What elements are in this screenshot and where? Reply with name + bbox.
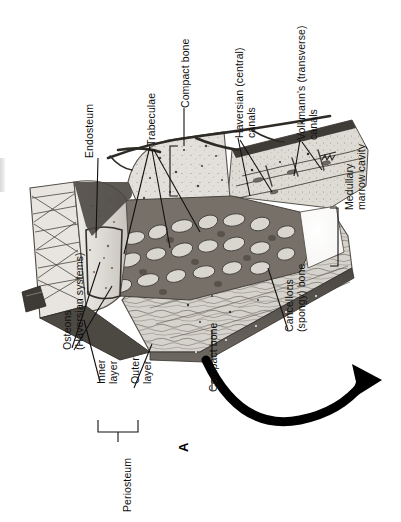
label-compact-bone-top: Compact bone [180, 39, 192, 109]
label-outer-layer: Outer layer [130, 357, 153, 384]
label-periosteum: Periosteum [122, 458, 134, 512]
label-haversian-line1: Haversian (central) [233, 47, 245, 138]
label-osteons-line1: Osteons [61, 310, 73, 350]
label-inner-layer: Inner layer [96, 360, 119, 384]
label-haversian-line2: canals [245, 107, 257, 138]
label-inner-line1: Inner [95, 360, 107, 384]
bone-structure-illustration [0, 0, 401, 522]
label-trabeculae: Trabeculae [146, 93, 158, 146]
direction-arrow [206, 360, 382, 422]
scan-edge-artifact [0, 158, 5, 192]
label-osteons-line2: (Haversian systems) [73, 252, 85, 350]
label-volkmanns-line1: Volkmann's (transverse) [295, 25, 307, 140]
label-inner-line2: layer [107, 361, 119, 384]
bracket-periosteum [98, 420, 138, 432]
label-endosteum: Endosteum [84, 104, 96, 158]
label-outer-line1: Outer [129, 357, 141, 384]
label-compact-bone-bottom: Compact bone [208, 323, 220, 393]
label-cancellous-line2: (spongy) bone [295, 264, 307, 332]
label-volkmanns-line2: canals [307, 109, 319, 140]
label-medullary-marrow-cavity: Medullary marrow cavity [344, 144, 367, 210]
label-cancellous-line1: Cancellous [283, 279, 295, 332]
label-outer-line2: layer [141, 361, 153, 384]
figure-letter-a: A [176, 443, 191, 452]
label-cancellous-bone: Cancellous (spongy) bone [284, 264, 307, 332]
label-medullary-line1: Medullary [343, 164, 355, 210]
label-haversian-canals: Haversian (central) canals [234, 47, 257, 138]
label-osteons: Osteons (Haversian systems) [62, 252, 85, 350]
label-medullary-line2: marrow cavity [355, 144, 367, 210]
label-volkmanns-canals: Volkmann's (transverse) canals [296, 25, 319, 140]
